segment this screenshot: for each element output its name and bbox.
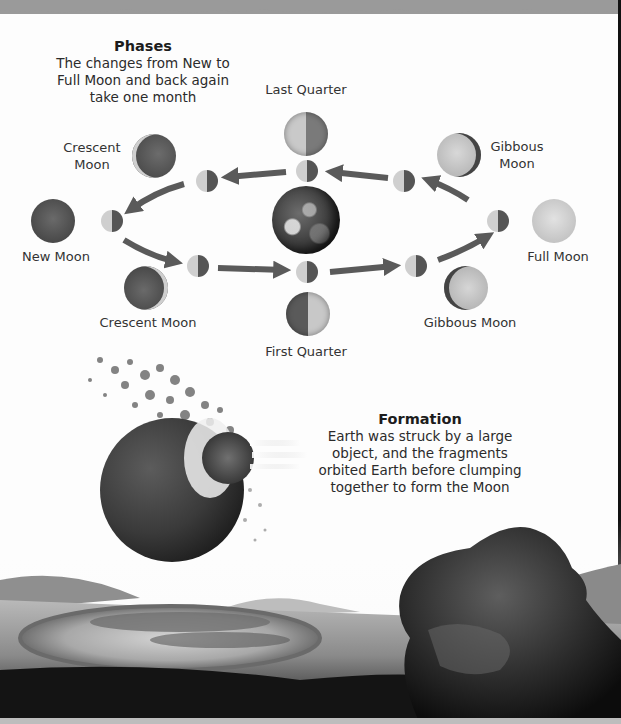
arrow-lastquarter-to-crescent [228, 172, 286, 177]
arrow-crescent-to-new [130, 184, 184, 210]
arrow-firstquarter-to-gibbous [330, 266, 394, 272]
orbit-moon-gibbous-bottom [405, 255, 427, 277]
formation-caption: Formation Earth was struck by a large ob… [310, 411, 530, 496]
moon-first-quarter [286, 292, 330, 336]
arrow-gibbous-to-lastquarter [332, 172, 388, 178]
moon-last-quarter [284, 112, 328, 156]
earth-globe [272, 186, 340, 254]
moon-new [31, 199, 75, 243]
orbit-moon-last-quarter [296, 160, 318, 182]
arrow-new-to-crescent [124, 240, 176, 262]
formation-line-1: Earth was struck by a large [310, 428, 530, 445]
orbit-moon-gibbous-top [393, 170, 415, 192]
moon-gibbous-bottom [444, 266, 488, 310]
orbit-moon-crescent-bottom [187, 255, 209, 277]
formation-line-2: object, and the fragments [310, 445, 530, 462]
formation-heading: Formation [310, 411, 530, 428]
arrow-full-to-gibbous [428, 180, 468, 200]
moon-gibbous-top [437, 133, 481, 177]
formation-line-4: together to form the Moon [310, 479, 530, 496]
orbit-moon-first-quarter [296, 261, 318, 283]
orbit-moon-crescent-top [196, 170, 218, 192]
moon-crescent-bottom [124, 266, 168, 310]
orbit-moon-new [101, 210, 123, 232]
formation-line-3: orbited Earth before clumping [310, 462, 530, 479]
arrow-crescent-to-firstquarter [218, 268, 284, 270]
page-bottom-edge [0, 718, 621, 724]
moon-crescent-top [132, 134, 176, 178]
orbit-moon-full [487, 210, 509, 232]
book-page: Phases The changes from New to Full Moon… [0, 0, 621, 724]
arrow-gibbous-to-full [438, 236, 488, 260]
moon-full [532, 199, 576, 243]
giant-impact-illustration [60, 340, 320, 580]
